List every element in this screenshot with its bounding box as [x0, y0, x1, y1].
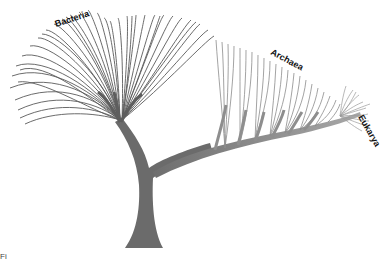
- trunk: [115, 118, 212, 248]
- label-archaea: Archaea: [269, 47, 306, 73]
- tree-of-life-diagram: Bacteria Archaea Eukarya Fi: [0, 0, 387, 260]
- label-eukarya: Eukarya: [356, 113, 383, 149]
- label-bacteria: Bacteria: [54, 8, 92, 29]
- caption-fragment: Fi: [0, 252, 7, 260]
- archaea-main-branch: [153, 112, 361, 178]
